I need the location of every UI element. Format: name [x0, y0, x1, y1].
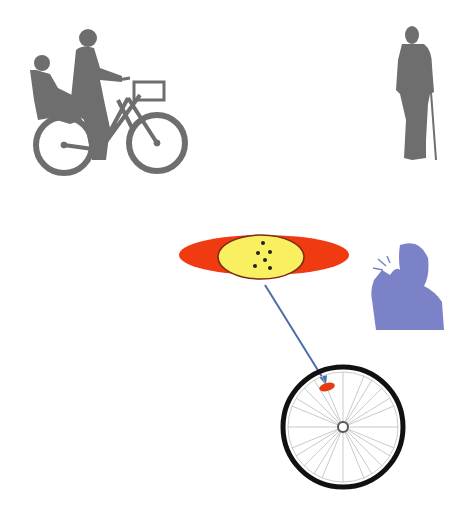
bicycle-wheel-icon [283, 367, 403, 487]
cyclist-with-child-icon [30, 29, 185, 173]
reflector-magnified-icon [179, 235, 349, 279]
diagram-canvas [0, 0, 473, 526]
glare-person-icon [371, 243, 444, 330]
elderly-pedestrian-icon [396, 26, 436, 160]
